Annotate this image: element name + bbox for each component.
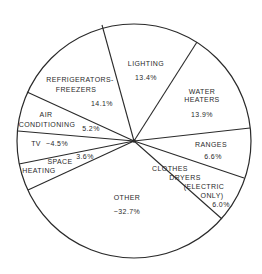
slice-value: 14.1% bbox=[91, 100, 113, 107]
slice-label: WATER bbox=[189, 88, 216, 95]
slice-value: 6.0% bbox=[212, 201, 230, 208]
slice-value: 6.6% bbox=[204, 153, 222, 160]
slice-label: DRYERS bbox=[169, 174, 200, 181]
slice-value: 3.6% bbox=[76, 153, 94, 160]
slice-label: FREEZERS bbox=[56, 86, 97, 93]
slice-label: TV bbox=[31, 140, 41, 147]
slice-value: 5.2% bbox=[82, 125, 100, 132]
slice-label: SPACE bbox=[47, 158, 72, 165]
slice-value: 13.9% bbox=[191, 111, 213, 118]
slice-label: HEATING bbox=[22, 167, 55, 174]
slice-tv: TV ~4.5% bbox=[31, 140, 68, 147]
slice-label: AIR bbox=[40, 111, 53, 118]
slice-label: (ELECTRIC bbox=[184, 183, 225, 191]
pie-center bbox=[132, 139, 136, 143]
slice-value: ~4.5% bbox=[46, 140, 68, 147]
pie-chart: LIGHTING 13.4% WATER HEATERS 13.9% RANGE… bbox=[0, 0, 262, 274]
slice-label: REFRIGERATORS- bbox=[46, 76, 114, 83]
slice-label: RANGES bbox=[195, 141, 227, 148]
slice-value: 13.4% bbox=[135, 74, 157, 81]
slice-label: ONLY) bbox=[201, 192, 224, 200]
slice-value: ~32.7% bbox=[114, 208, 140, 215]
slice-label: LIGHTING bbox=[128, 60, 164, 67]
slice-label: CLOTHES bbox=[152, 165, 188, 172]
slice-label: HEATERS bbox=[184, 96, 219, 103]
slice-label: CONDITIONING bbox=[19, 121, 76, 128]
slice-label: OTHER bbox=[114, 194, 141, 201]
